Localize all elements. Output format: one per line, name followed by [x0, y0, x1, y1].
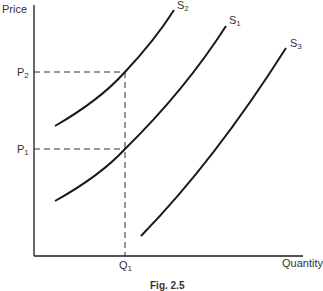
s1-sub: 1: [236, 19, 240, 28]
q1-sub: 1: [128, 264, 132, 273]
y-axis-label: Price: [2, 4, 27, 15]
s2-label: S2: [177, 0, 189, 13]
q1-base: Q: [119, 259, 128, 271]
p1-sub: 1: [24, 148, 28, 157]
curve-s2: [55, 10, 174, 126]
s3-sub: 3: [297, 42, 301, 51]
figure-caption: Fig. 2.5: [150, 280, 184, 291]
q1-label: Q1: [119, 260, 132, 273]
s3-label: S3: [290, 38, 302, 51]
p2-label: P2: [17, 67, 29, 80]
s1-label: S1: [229, 15, 241, 28]
p2-sub: 2: [24, 71, 28, 80]
curve-s1: [55, 26, 226, 201]
curve-s3: [141, 48, 286, 236]
s2-sub: 2: [184, 4, 188, 13]
x-axis-label: Quantity: [282, 258, 323, 269]
p1-label: P1: [17, 144, 29, 157]
